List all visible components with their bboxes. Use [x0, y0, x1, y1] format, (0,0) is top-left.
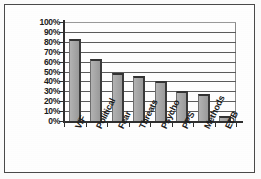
x-tick-mark-5 [172, 123, 173, 127]
bar-face [91, 61, 100, 121]
y-tick-label-100: 100% [12, 18, 60, 26]
y-tick-mark-80 [59, 42, 63, 43]
y-tick-mark-60 [59, 62, 63, 63]
y-tick-label-0: 0% [12, 117, 60, 125]
y-tick-mark-70 [59, 52, 63, 53]
y-tick-mark-30 [59, 91, 63, 92]
y-tick-mark-100 [59, 22, 63, 23]
y-tick-mark-0 [59, 121, 63, 122]
y-tick-label-30: 30% [12, 87, 60, 95]
y-axis-labels: 100%90%80%70%60%50%40%30%20%10%0% [10, 8, 60, 128]
bar-v-f [69, 39, 81, 121]
y-tick-label-90: 90% [12, 28, 60, 36]
y-tick-label-40: 40% [12, 77, 60, 85]
y-tick-label-70: 70% [12, 48, 60, 56]
x-tick-mark-0 [64, 123, 65, 127]
x-tick-mark-6 [193, 123, 194, 127]
y-tick-mark-10 [59, 111, 63, 112]
y-tick-mark-20 [59, 101, 63, 102]
x-tick-mark-3 [129, 123, 130, 127]
x-tick-mark-1 [86, 123, 87, 127]
bar-chart: 100%90%80%70%60%50%40%30%20%10%0% V/FPol… [10, 8, 251, 170]
y-tick-label-50: 50% [12, 68, 60, 76]
y-tick-label-80: 80% [12, 38, 60, 46]
y-tick-label-20: 20% [12, 97, 60, 105]
x-axis-line [63, 121, 243, 123]
x-tick-mark-end [236, 123, 237, 127]
image-frame: 100%90%80%70%60%50%40%30%20%10%0% V/FPol… [0, 0, 261, 179]
y-tick-label-60: 60% [12, 58, 60, 66]
y-tick-mark-40 [59, 81, 63, 82]
bar-face [70, 41, 79, 121]
x-tick-mark-4 [150, 123, 151, 127]
y-tick-mark-90 [59, 32, 63, 33]
x-tick-mark-2 [107, 123, 108, 127]
y-tick-label-10: 10% [12, 107, 60, 115]
y-tick-mark-50 [59, 72, 63, 73]
x-tick-mark-7 [215, 123, 216, 127]
x-axis-labels: V/FPoliticalFearThreatsPsychoPPSMethodsE… [64, 126, 244, 179]
